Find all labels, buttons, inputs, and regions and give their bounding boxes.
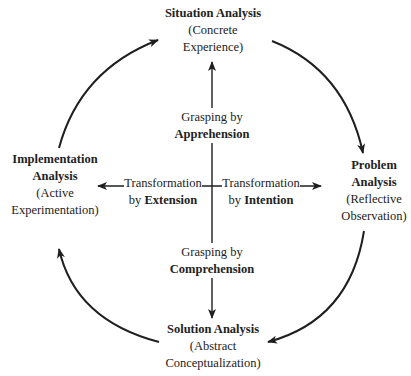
cycle-arc-situation-to-problem bbox=[272, 41, 363, 153]
node-situation-analysis: Situation Analysis (Concrete Experience) bbox=[143, 5, 283, 56]
node-solution-subtitle-1: (Abstract bbox=[138, 338, 288, 355]
axis-down-line1: Grasping by bbox=[162, 244, 262, 261]
axis-up-line1: Grasping by bbox=[162, 109, 262, 126]
axis-label-apprehension: Grasping by Apprehension bbox=[162, 109, 262, 143]
node-situation-subtitle-2: Experience) bbox=[143, 39, 283, 56]
node-implementation-analysis: Implementation Analysis (Active Experime… bbox=[0, 151, 110, 219]
node-problem-title-2: Analysis bbox=[332, 174, 411, 191]
axis-left-prefix: by bbox=[129, 193, 145, 207]
axis-label-intention: Transformation by Intention bbox=[215, 175, 307, 209]
node-situation-title: Situation Analysis bbox=[143, 5, 283, 22]
node-implementation-title-1: Implementation bbox=[0, 151, 110, 168]
node-situation-subtitle-1: (Concrete bbox=[143, 22, 283, 39]
node-implementation-subtitle-2: Experimentation) bbox=[0, 202, 110, 219]
axis-up-bold: Apprehension bbox=[175, 127, 250, 141]
axis-down-bold: Comprehension bbox=[170, 262, 255, 276]
node-problem-subtitle-1: (Reflective bbox=[332, 191, 411, 208]
cycle-arc-implementation-to-situation bbox=[59, 40, 158, 148]
node-solution-analysis: Solution Analysis (Abstract Conceptualiz… bbox=[138, 321, 288, 372]
axis-right-line1: Transformation bbox=[222, 175, 299, 192]
axis-left-line1: Transformation bbox=[124, 175, 201, 192]
node-problem-title-1: Problem bbox=[332, 157, 411, 174]
axis-label-comprehension: Grasping by Comprehension bbox=[162, 244, 262, 278]
node-problem-subtitle-2: Observation) bbox=[332, 208, 411, 225]
node-implementation-title-2: Analysis bbox=[0, 168, 110, 185]
axis-left-bold: Extension bbox=[144, 193, 197, 207]
node-solution-title: Solution Analysis bbox=[138, 321, 288, 338]
node-solution-subtitle-2: Conceptualization) bbox=[138, 355, 288, 372]
axis-right-bold: Intention bbox=[244, 193, 293, 207]
axis-right-prefix: by bbox=[229, 193, 245, 207]
axis-label-extension: Transformation by Extension bbox=[117, 175, 209, 209]
node-problem-analysis: Problem Analysis (Reflective Observation… bbox=[332, 157, 411, 225]
node-implementation-subtitle-1: (Active bbox=[0, 185, 110, 202]
